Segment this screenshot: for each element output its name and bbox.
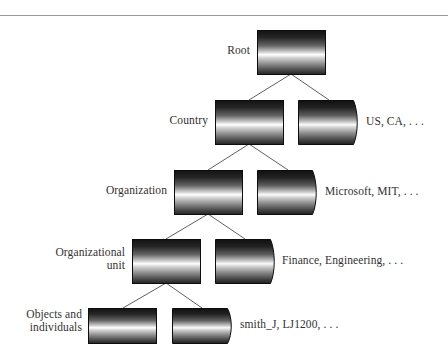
organization-node-primary	[174, 170, 243, 215]
top-divider-rule	[0, 15, 448, 16]
country-node-primary	[215, 100, 284, 145]
connector-country-to-org-1	[208, 144, 249, 170]
country-node-secondary	[298, 100, 362, 145]
organizational-unit-node-secondary	[215, 239, 279, 284]
root-node	[257, 30, 326, 75]
objects-node-primary	[88, 308, 157, 344]
directory-information-tree-figure: Root	[0, 0, 448, 357]
connector-ou-to-obj-2	[166, 283, 202, 308]
connector-org-to-ou-1	[166, 214, 208, 239]
level-label-organizational-unit: Organizational unit	[20, 246, 125, 272]
connector-root-to-country-2	[291, 74, 329, 100]
level-example-objects-and-individuals: smith_J, LJ1200, . . .	[240, 318, 380, 331]
connector-country-to-org-2	[249, 144, 288, 170]
connector-root-to-country-1	[249, 74, 291, 100]
organization-node-secondary	[257, 170, 321, 215]
level-example-organization: Microsoft, MIT, . . .	[325, 185, 448, 198]
level-label-objects-and-individuals: Objects and individuals	[6, 308, 82, 334]
objects-node-secondary	[172, 308, 236, 344]
level-label-root: Root	[176, 44, 250, 57]
level-example-country: US, CA, . . .	[366, 115, 448, 128]
level-label-organization: Organization	[92, 184, 167, 197]
level-label-country: Country	[150, 114, 208, 127]
organizational-unit-node-primary	[132, 239, 201, 284]
connector-ou-to-obj-1	[123, 283, 166, 308]
connector-org-to-ou-2	[208, 214, 245, 239]
level-example-organizational-unit: Finance, Engineering, . . .	[282, 254, 448, 267]
